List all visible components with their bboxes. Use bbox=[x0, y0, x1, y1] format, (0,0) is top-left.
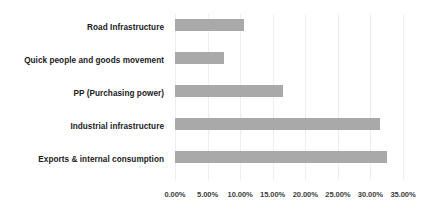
tick-label-15: 15.00% bbox=[260, 190, 285, 199]
tick-label-20: 20.00% bbox=[293, 190, 318, 199]
category-axis-labels: Road Infrastructure Quick people and goo… bbox=[0, 14, 170, 180]
category-label-road-infrastructure: Road Infrastructure bbox=[0, 22, 164, 33]
bar-road-infrastructure bbox=[175, 19, 244, 31]
bar-chart: Road Infrastructure Quick people and goo… bbox=[0, 0, 428, 218]
tick-label-10: 10.00% bbox=[228, 190, 253, 199]
category-label-quick-people-and-goods-movement: Quick people and goods movement bbox=[0, 55, 164, 66]
bar-quick-people-and-goods-movement bbox=[175, 52, 224, 64]
tick-label-0: 0.00% bbox=[164, 190, 185, 199]
tick-label-30: 30.00% bbox=[358, 190, 383, 199]
bar-pp-purchasing-power bbox=[175, 85, 283, 97]
category-label-exports-internal-consumption: Exports & internal consumption bbox=[0, 154, 164, 165]
bar-exports-internal-consumption bbox=[175, 151, 387, 163]
gridline-35-percent bbox=[403, 14, 404, 180]
tick-label-25: 25.00% bbox=[325, 190, 350, 199]
tick-label-5: 5.00% bbox=[197, 190, 218, 199]
value-axis-tick-labels: 0.00% 5.00% 10.00% 15.00% 20.00% 25.00% … bbox=[0, 190, 428, 204]
category-label-industrial-infrastructure: Industrial infrastructure bbox=[0, 121, 164, 132]
bar-industrial-infrastructure bbox=[175, 118, 380, 130]
plot-area bbox=[175, 14, 403, 180]
tick-label-35: 35.00% bbox=[390, 190, 415, 199]
category-label-pp-purchasing-power: PP (Purchasing power) bbox=[0, 88, 164, 99]
